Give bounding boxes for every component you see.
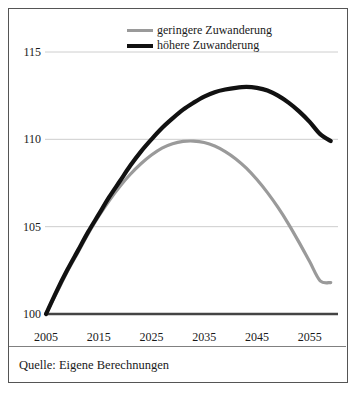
x-axis-tick-label: 2025 <box>131 331 171 343</box>
legend-label-higher-immigration: höhere Zuwanderung <box>157 38 259 53</box>
x-axis-tick-label: 2035 <box>184 331 224 343</box>
legend-swatch-lower-immigration <box>127 29 153 32</box>
x-axis-tick-label: 2015 <box>79 331 119 343</box>
plot-area: 100105110115200520152025203520452055 <box>9 9 346 346</box>
series-line-higher-immigration <box>46 87 331 314</box>
legend-item-lower-immigration: geringere Zuwanderung <box>127 23 272 38</box>
legend-swatch-higher-immigration <box>127 44 153 48</box>
chart-canvas <box>9 9 346 346</box>
y-axis-tick-label: 105 <box>11 221 41 233</box>
figure-frame: 100105110115200520152025203520452055 ger… <box>8 8 348 383</box>
legend-item-higher-immigration: höhere Zuwanderung <box>127 38 272 53</box>
x-axis-tick-label: 2005 <box>26 331 66 343</box>
x-axis-tick-label: 2045 <box>237 331 277 343</box>
source-note: Quelle: Eigene Berechnungen <box>19 358 169 373</box>
legend-label-lower-immigration: geringere Zuwanderung <box>157 23 272 38</box>
chart-legend: geringere Zuwanderung höhere Zuwanderung <box>127 23 272 53</box>
y-axis-tick-label: 100 <box>11 308 41 320</box>
source-divider <box>9 346 346 347</box>
y-axis-tick-label: 110 <box>11 133 41 145</box>
x-axis-tick-label: 2055 <box>290 331 330 343</box>
y-axis-tick-label: 115 <box>11 46 41 58</box>
